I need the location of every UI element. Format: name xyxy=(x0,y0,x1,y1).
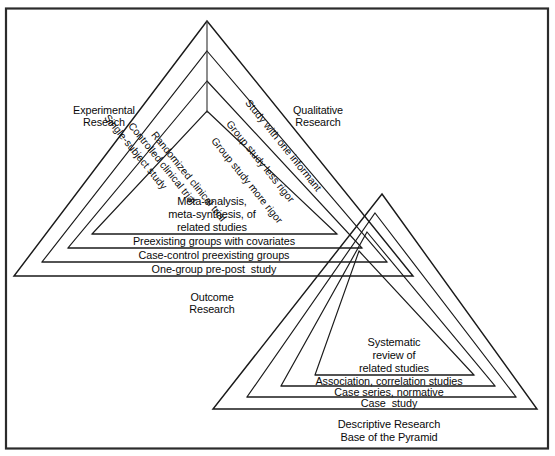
label-outcome-research: Outcome Research xyxy=(189,291,234,315)
core-label-systematic-review: Systematic review of related studies xyxy=(359,336,429,375)
research-pyramid-figure: Experimental Reseach Qualitative Researc… xyxy=(0,0,555,456)
figure-frame xyxy=(6,9,548,449)
caption-descriptive-research: Descriptive Research Base of the Pyramid xyxy=(338,418,441,443)
label-qualitative-research: Qualitative Research xyxy=(293,104,343,128)
band-label-case-study: Case study xyxy=(361,397,417,409)
pyramid-line-art xyxy=(0,0,555,456)
band-label-one-group-pre-post-study: One-group pre-post study xyxy=(152,263,277,275)
core-label-meta-analysis: Meta-analysis, meta-synthesis, of relate… xyxy=(168,195,255,234)
band-label-preexisting-groups-with-covariates: Preexisting groups with covariates xyxy=(133,235,295,247)
band-label-case-control-preexisting-groups: Case-control preexisting groups xyxy=(139,249,290,261)
